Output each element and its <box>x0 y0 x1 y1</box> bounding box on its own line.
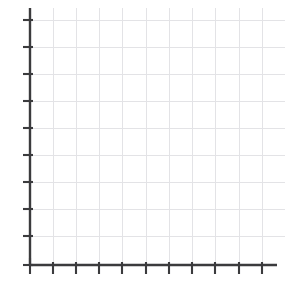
chart-figure <box>0 0 290 287</box>
chart-canvas <box>0 0 290 287</box>
